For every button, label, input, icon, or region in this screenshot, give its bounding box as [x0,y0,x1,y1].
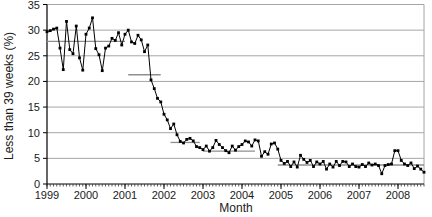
data-point-marker [403,163,406,166]
data-point-marker [302,158,305,161]
data-point-marker [332,166,335,169]
data-point-marker [283,162,286,165]
data-point-marker [322,160,325,163]
data-point-marker [367,162,370,165]
data-point-marker [130,41,133,44]
data-point-marker [59,47,62,50]
x-tick-label: 2007 [347,189,371,201]
data-point-marker [140,38,143,41]
data-point-marker [182,142,185,145]
data-point-marker [143,50,146,53]
y-tick-label: 5 [34,152,40,164]
data-point-marker [247,141,250,144]
data-point-marker [341,160,344,163]
data-point-marker [146,44,149,47]
data-point-marker [354,165,357,168]
data-point-marker [377,164,380,167]
data-point-marker [390,163,393,166]
x-tick-label: 2000 [74,189,98,201]
y-tick-label: 15 [28,101,40,113]
data-point-marker [46,30,49,33]
data-point-marker [325,168,328,171]
x-tick-label: 2003 [191,189,215,201]
data-point-marker [270,143,273,146]
data-point-marker [345,161,348,164]
data-point-marker [234,149,237,152]
data-point-marker [68,48,71,51]
data-point-marker [393,149,396,152]
data-point-marker [371,164,374,167]
x-axis-title: Month [47,201,425,215]
data-point-marker [231,145,234,148]
data-point-marker [88,27,91,30]
data-point-marker [387,163,390,166]
data-point-marker [328,163,331,166]
data-point-marker [104,47,107,50]
data-point-marker [306,161,309,164]
line-chart-canvas: 0510152025303519992000200120022003200420… [0,0,432,217]
data-point-marker [315,161,318,164]
data-point-marker [85,33,88,36]
data-point-marker [133,42,136,45]
x-tick-label: 2006 [308,189,332,201]
data-point-marker [65,20,68,23]
data-point-marker [78,56,81,59]
data-point-marker [117,31,120,34]
data-point-marker [163,113,166,116]
data-point-marker [289,165,292,168]
data-point-marker [280,159,283,162]
data-point-marker [413,167,416,170]
data-point-marker [52,28,55,31]
data-point-marker [72,52,75,55]
x-tick-label: 2002 [152,189,176,201]
data-point-marker [172,123,175,126]
x-tick-label: 2001 [113,189,137,201]
x-tick-label: 2004 [230,189,254,201]
y-tick-label: 30 [28,24,40,36]
data-point-marker [312,165,315,168]
data-point-marker [416,165,419,168]
data-point-marker [419,168,422,171]
data-point-marker [127,29,130,32]
data-point-marker [176,133,179,136]
data-point-marker [267,153,270,156]
data-point-marker [406,164,409,167]
y-axis-title: Less than 39 weeks (%) [1,0,17,192]
x-tick-label: 2008 [386,189,410,201]
data-point-marker [208,150,211,153]
data-point-marker [159,101,162,104]
data-point-marker [98,53,101,56]
data-point-marker [400,159,403,162]
data-point-marker [244,140,247,143]
data-point-marker [49,29,52,32]
y-tick-label: 20 [28,75,40,87]
data-point-marker [62,68,65,71]
data-point-marker [192,140,195,143]
data-point-marker [124,33,127,36]
data-point-marker [75,25,78,28]
data-point-marker [237,145,240,148]
data-point-marker [189,137,192,140]
data-point-marker [254,138,257,141]
data-point-marker [221,146,224,149]
data-point-marker [185,138,188,141]
data-point-marker [273,142,276,145]
data-point-marker [94,47,97,50]
data-point-marker [150,78,153,81]
y-tick-label: 35 [28,0,40,11]
data-point-marker [338,164,341,167]
data-point-marker [81,69,84,72]
data-point-marker [335,160,338,163]
data-point-marker [179,140,182,143]
data-point-marker [137,34,140,37]
data-point-marker [374,163,377,166]
x-tick-label: 2005 [269,189,293,201]
data-point-marker [91,16,94,19]
data-point-marker [205,145,208,148]
data-point-marker [380,172,383,175]
data-point-marker [319,163,322,166]
data-point-marker [211,146,214,149]
y-tick-label: 25 [28,50,40,62]
data-point-marker [299,154,302,157]
data-point-marker [293,161,296,164]
